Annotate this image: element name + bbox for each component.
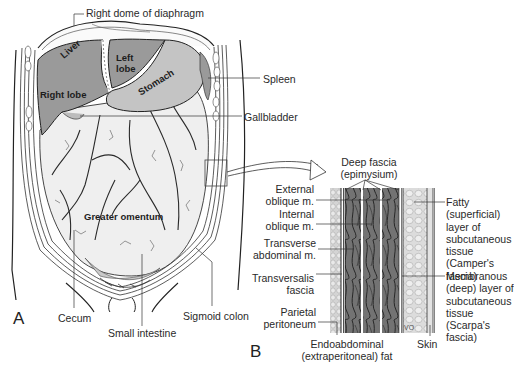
label-line: Membranous	[446, 270, 514, 282]
label-external-oblique: External oblique m.	[238, 183, 314, 207]
label-transversalis-fascia: Transversalis fascia	[232, 272, 314, 296]
label-line: Endoabdominal	[292, 338, 402, 350]
right-body-outline	[12, 50, 16, 300]
label-internal-oblique: Internal oblique m.	[238, 208, 314, 232]
greater-omentum-shape	[40, 90, 209, 276]
label-line: subcutaneous	[446, 233, 511, 245]
campers-fascia-fat-layer	[403, 188, 427, 333]
label-line: abdominal m.	[232, 249, 316, 261]
spleen	[200, 52, 211, 100]
label-line: tissue	[446, 245, 511, 257]
callout-spleen: Spleen	[263, 73, 296, 85]
callout-small-intestine: Small intestine	[108, 327, 176, 339]
label-transverse-abdominal: Transverse abdominal m.	[232, 237, 316, 261]
deep-fascia-label: Deep fascia (epimysium)	[336, 156, 402, 180]
label-endoabdominal-fat: Endoabdominal (extraperitoneal) fat	[292, 338, 402, 362]
callout-diaphragm: Right dome of diaphragm	[86, 7, 204, 19]
label-line: Parietal	[232, 306, 316, 318]
right-lobe-label: Right lobe	[40, 89, 86, 100]
label-line: External	[238, 183, 314, 195]
left-lobe-label-line2: lobe	[116, 63, 136, 74]
panel-b-letter: B	[250, 342, 261, 362]
label-line: Transverse	[232, 237, 316, 249]
label-line: (superficial)	[446, 208, 511, 220]
artist-signature: VO	[404, 322, 414, 334]
label-line: fascia)	[446, 331, 514, 343]
external-oblique-muscle	[382, 188, 399, 333]
left-lobe-label-line1: Left	[116, 52, 133, 63]
callout-gallbladder: Gallbladder	[244, 111, 298, 123]
label-line: fascia	[232, 284, 314, 296]
label-line: (extraperitoneal) fat	[292, 350, 402, 362]
internal-oblique-muscle	[363, 188, 380, 333]
deep-fascia-line1: Deep fascia	[336, 156, 402, 168]
panel-a-letter: A	[13, 309, 24, 329]
transverse-abdominal-muscle	[345, 188, 361, 333]
endoabdominal-fat-layer	[330, 188, 341, 333]
label-line: oblique m.	[238, 195, 314, 207]
panel-b-layers	[316, 180, 445, 336]
detail-box	[205, 160, 227, 186]
label-line: tissue	[446, 307, 514, 319]
label-line: Internal	[238, 208, 314, 220]
label-line: (Scarpa's	[446, 319, 514, 331]
label-line: (Camper's	[446, 257, 511, 269]
label-line: Transversalis	[232, 272, 314, 284]
skin-layer	[427, 188, 433, 333]
label-scarpas-fascia: Membranous (deep) layer of subcutaneous …	[446, 270, 514, 344]
deep-fascia-line2: (epimysium)	[336, 168, 402, 180]
label-line: (deep) layer of	[446, 282, 514, 294]
label-line: subcutaneous	[446, 295, 514, 307]
label-parietal-peritoneum: Parietal peritoneum	[232, 306, 316, 330]
greater-omentum-label: Greater omentum	[84, 211, 163, 222]
label-line: oblique m.	[238, 220, 314, 232]
label-line: Fatty	[446, 196, 511, 208]
arrow-to-panel-b-icon	[310, 160, 326, 180]
label-line: layer of	[446, 221, 511, 233]
callout-cecum: Cecum	[58, 312, 91, 324]
label-line: peritoneum	[232, 318, 316, 330]
label-skin: Skin	[417, 338, 437, 350]
